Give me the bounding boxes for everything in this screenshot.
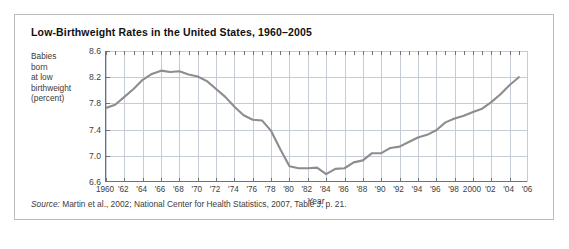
x-tick-label: '86 <box>338 185 349 194</box>
y-tick-label: 7.0 <box>89 151 101 161</box>
x-tick-label: '74 <box>228 185 239 194</box>
y-tick-label: 8.6 <box>89 46 101 56</box>
x-tick-label: '80 <box>283 185 294 194</box>
x-tick-label: '66 <box>155 185 166 194</box>
x-tick-label: '68 <box>173 185 184 194</box>
chart-title: Low-Birthweight Rates in the United Stat… <box>31 26 312 38</box>
plot-area <box>105 51 527 182</box>
x-tick-label: '84 <box>320 185 331 194</box>
x-tick-label: '76 <box>246 185 257 194</box>
x-tick-label: '88 <box>357 185 368 194</box>
x-tick-label: '98 <box>448 185 459 194</box>
x-tick-label: '62 <box>118 185 129 194</box>
figure-panel: Low-Birthweight Rates in the United Stat… <box>14 14 554 220</box>
source-label: Source: <box>31 199 60 209</box>
x-tick-label: '06 <box>522 185 533 194</box>
y-axis-title: Babies born at low birthweight (percent) <box>31 51 89 104</box>
y-tick-label: 7.8 <box>89 98 101 108</box>
x-tick-label: '92 <box>393 185 404 194</box>
plot-area-wrapper: 8.68.27.87.47.06.6 1960'62'64'66'68'70'7… <box>105 51 527 182</box>
source-citation: Martin et al., 2002; National Center for… <box>60 199 347 209</box>
line-chart-svg <box>106 51 528 182</box>
data-line-low-birthweight <box>106 71 519 174</box>
x-tick-label: '64 <box>136 185 147 194</box>
x-tick-label: 1960 <box>96 185 114 194</box>
y-axis-title-line: Babies <box>31 51 89 62</box>
x-tick-label: 2000 <box>463 185 481 194</box>
x-tick-label: '96 <box>430 185 441 194</box>
source-note: Source: Martin et al., 2002; National Ce… <box>31 199 346 209</box>
x-tick-label: '02 <box>485 185 496 194</box>
y-axis-title-line: (percent) <box>31 93 89 104</box>
y-tick-label: 8.2 <box>89 72 101 82</box>
x-tick-label: '72 <box>210 185 221 194</box>
x-tick-label: '70 <box>191 185 202 194</box>
x-tick-label: '78 <box>265 185 276 194</box>
y-axis-title-line: at low <box>31 72 89 83</box>
y-tick-label: 7.4 <box>89 125 101 135</box>
x-tick-label: '94 <box>412 185 423 194</box>
x-tick-label: '04 <box>503 185 514 194</box>
y-axis-title-line: born <box>31 62 89 73</box>
x-tick-label: '90 <box>375 185 386 194</box>
y-axis-title-line: birthweight <box>31 83 89 94</box>
x-tick-label: '82 <box>301 185 312 194</box>
